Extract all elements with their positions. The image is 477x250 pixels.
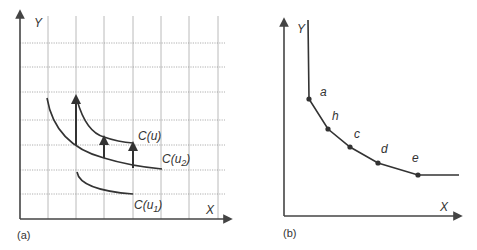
point-c [347, 144, 352, 149]
point-e [415, 172, 420, 177]
figure: Y X C(u) C(u2) C(u1) (a) a h c d e Y X (… [0, 0, 477, 250]
curve-c-u1 [77, 172, 133, 194]
x-axis-label-b: X [439, 200, 449, 214]
label-c-u1: C(u1) [134, 198, 162, 214]
point-h [325, 126, 330, 131]
caption-a: (a) [17, 229, 30, 241]
label-c: c [354, 127, 360, 141]
panel-b: a h c d e Y X (b) [283, 20, 459, 239]
label-d: d [381, 142, 388, 156]
label-h: h [332, 109, 339, 123]
curve-points [306, 96, 420, 177]
label-c-u2: C(u2) [162, 152, 190, 168]
label-c-u: C(u) [138, 129, 161, 143]
y-axis-label-b: Y [297, 22, 306, 36]
vertical-grid [48, 16, 218, 219]
caption-b: (b) [283, 227, 296, 239]
panel-a: Y X C(u) C(u2) C(u1) (a) [17, 14, 228, 241]
curve-c-u [77, 100, 133, 143]
horizontal-grid [20, 43, 225, 194]
label-a: a [320, 85, 327, 99]
label-e: e [412, 151, 419, 165]
point-d [375, 160, 380, 165]
y-axis-label-a: Y [34, 16, 43, 30]
x-axis-label-a: X [205, 203, 215, 217]
point-a [306, 96, 311, 101]
